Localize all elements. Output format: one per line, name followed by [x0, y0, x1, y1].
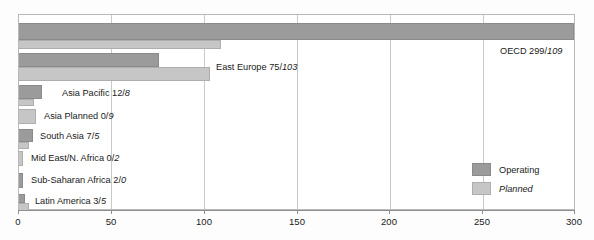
- label-asia-pacific-name: Asia Pacific: [62, 88, 110, 98]
- label-asia-planned-name: Asia Planned: [44, 111, 98, 121]
- bar-south-asia-planned: [19, 142, 29, 149]
- bar-south-asia-operating: [19, 129, 33, 142]
- bar-sub-saharan-operating: [19, 173, 23, 188]
- bar-oecd-planned: [19, 40, 221, 49]
- label-mid-east: Mid East/N. Africa 0/2: [31, 154, 119, 163]
- label-sub-saharan: Sub-Saharan Africa 2/0: [31, 176, 126, 185]
- bar-east-europe-planned: [19, 67, 210, 81]
- x-tick-label-300: 300: [566, 216, 582, 227]
- bar-asia-pacific-operating: [19, 85, 42, 99]
- x-axis: 0 50 100 150 200 250 300: [18, 210, 575, 240]
- gridline-200: [390, 15, 391, 209]
- label-asia-pacific: Asia Pacific 12/8: [62, 89, 130, 98]
- legend-swatch-planned-icon: [472, 182, 491, 195]
- horizontal-bar-chart: OECD 299/109 East Europe 75/103 Asia Pac…: [0, 0, 594, 240]
- legend-swatch-operating-icon: [472, 163, 491, 176]
- label-latin-america-planned: 5: [101, 196, 106, 206]
- x-tick-label-100: 100: [196, 216, 212, 227]
- label-mid-east-name: Mid East/N. Africa: [31, 153, 104, 163]
- label-sub-saharan-planned: 0: [121, 175, 126, 185]
- label-east-europe-name: East Europe: [216, 62, 267, 72]
- label-oecd-planned: 109: [547, 46, 562, 56]
- label-asia-pacific-planned: 8: [125, 88, 130, 98]
- x-tick-300: [574, 210, 575, 214]
- x-tick-0: [18, 210, 19, 214]
- legend-label-operating: Operating: [499, 165, 539, 175]
- label-east-europe: East Europe 75/103: [216, 63, 297, 72]
- bar-east-europe-operating: [19, 53, 159, 67]
- label-oecd: OECD 299/109: [500, 47, 562, 56]
- label-asia-pacific-operating: 12: [112, 88, 122, 98]
- x-tick-label-0: 0: [15, 216, 20, 227]
- label-east-europe-planned: 103: [282, 62, 297, 72]
- label-mid-east-planned: 2: [114, 153, 119, 163]
- label-east-europe-operating: 75: [269, 62, 279, 72]
- label-oecd-operating: 299: [529, 46, 544, 56]
- label-latin-america-name: Latin America: [35, 196, 91, 206]
- x-tick-label-50: 50: [106, 216, 117, 227]
- x-tick-150: [297, 210, 298, 214]
- gridline-150: [297, 15, 298, 209]
- label-sub-saharan-name: Sub-Saharan Africa: [31, 175, 111, 185]
- bar-latin-america-operating: [19, 194, 25, 203]
- plot-area: OECD 299/109 East Europe 75/103 Asia Pac…: [18, 14, 575, 210]
- label-south-asia-planned: 5: [94, 131, 99, 141]
- bar-mid-east-planned: [19, 151, 23, 166]
- label-asia-planned: Asia Planned 0/9: [44, 112, 114, 121]
- x-tick-label-200: 200: [381, 216, 397, 227]
- bar-oecd-operating: [19, 23, 574, 40]
- legend-item-planned: Planned: [472, 182, 564, 195]
- chart-legend: Operating Planned: [472, 163, 564, 201]
- x-tick-200: [389, 210, 390, 214]
- bar-asia-pacific-planned: [19, 99, 34, 106]
- x-tick-100: [204, 210, 205, 214]
- bar-asia-planned-planned: [19, 109, 36, 124]
- label-asia-planned-planned: 9: [108, 111, 113, 121]
- legend-item-operating: Operating: [472, 163, 564, 176]
- label-latin-america: Latin America 3/5: [35, 197, 106, 206]
- x-tick-250: [482, 210, 483, 214]
- x-tick-50: [111, 210, 112, 214]
- x-tick-label-250: 250: [474, 216, 490, 227]
- label-south-asia-name: South Asia: [40, 131, 84, 141]
- legend-label-planned: Planned: [499, 184, 533, 194]
- label-oecd-name: OECD: [500, 46, 527, 56]
- x-tick-label-150: 150: [289, 216, 305, 227]
- label-south-asia: South Asia 7/5: [40, 132, 99, 141]
